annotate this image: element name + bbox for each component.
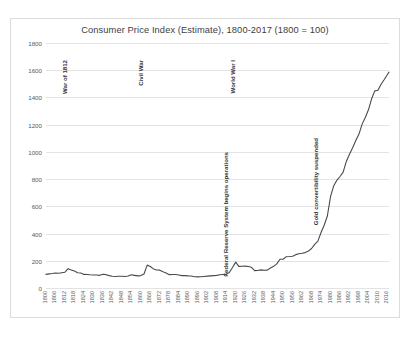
x-axis-tick-label: 1992: [346, 291, 352, 303]
y-axis-tick-label: 1400: [28, 94, 42, 101]
plot-area: 020040060080010001200140016001800 180018…: [46, 43, 389, 288]
x-axis-tick-label: 2010: [375, 291, 381, 303]
y-axis-tick-label: 0: [39, 285, 42, 292]
x-axis-tick-label: 1944: [271, 291, 277, 303]
y-axis-tick-label: 800: [32, 176, 42, 183]
x-axis-tick-label: 1902: [204, 291, 210, 303]
chart-container: Consumer Price Index (Estimate), 1800-20…: [10, 18, 400, 318]
x-axis-tick-label: 1920: [233, 291, 239, 303]
x-axis-tick-label: 1818: [71, 291, 77, 303]
x-axis-tick-label: 1926: [242, 291, 248, 303]
x-axis-tick-label: 1884: [176, 291, 182, 303]
x-axis-tick-label: 1812: [62, 291, 68, 303]
x-axis-tick-label: 1842: [109, 291, 115, 303]
x-axis-tick-label: 1950: [280, 291, 286, 303]
x-axis-tick-label: 1836: [100, 291, 106, 303]
x-axis-tick-label: 1854: [128, 291, 134, 303]
gridline: [46, 288, 389, 289]
y-axis-tick-label: 1200: [28, 121, 42, 128]
x-axis-tick-label: 1980: [328, 291, 334, 303]
x-axis-tick-label: 1896: [195, 291, 201, 303]
x-axis-tick-label: 1860: [138, 291, 144, 303]
y-axis-tick-label: 1000: [28, 148, 42, 155]
x-axis-tick-label: 1962: [299, 291, 305, 303]
y-axis-tick-label: 1800: [28, 40, 42, 47]
chart-title: Consumer Price Index (Estimate), 1800-20…: [11, 25, 399, 35]
x-axis-tick-label: 1830: [90, 291, 96, 303]
x-axis-tick-label: 1986: [337, 291, 343, 303]
x-axis-tick-label: 1878: [166, 291, 172, 303]
x-axis-tick-label: 1998: [356, 291, 362, 303]
x-axis-tick-label: 1890: [185, 291, 191, 303]
x-axis-tick-label: 1974: [318, 291, 324, 303]
x-axis-tick-label: 1800: [43, 291, 49, 303]
y-axis-tick-label: 1600: [28, 67, 42, 74]
y-axis-tick-label: 400: [32, 230, 42, 237]
x-axis-tick-label: 1968: [309, 291, 315, 303]
x-axis-tick-label: 1806: [52, 291, 58, 303]
x-axis-tick-label: 1866: [147, 291, 153, 303]
x-axis-tick-label: 1848: [119, 291, 125, 303]
series-line: [46, 43, 389, 288]
x-axis-tick-label: 1908: [214, 291, 220, 303]
x-axis-tick-label: 2004: [365, 291, 371, 303]
x-axis-tick-label: 1872: [157, 291, 163, 303]
y-axis-tick-label: 200: [32, 257, 42, 264]
y-axis-tick-label: 600: [32, 203, 42, 210]
x-axis-tick-label: 1824: [81, 291, 87, 303]
x-axis-tick-label: 1932: [252, 291, 258, 303]
x-axis-tick-label: 1914: [223, 291, 229, 303]
x-axis-tick-label: 2016: [384, 291, 390, 303]
x-axis-tick-label: 1938: [261, 291, 267, 303]
x-axis-tick-label: 1956: [290, 291, 296, 303]
